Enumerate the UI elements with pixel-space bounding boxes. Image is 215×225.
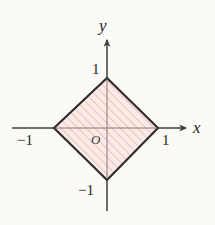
figure-container: y x 1 −1 −1 1 O	[0, 0, 215, 225]
diamond-region-fill	[54, 78, 158, 180]
coordinate-plane-figure	[0, 0, 215, 225]
tick-label-y-negative-one: −1	[78, 183, 94, 198]
tick-label-y-positive-one: 1	[92, 62, 100, 77]
origin-label: O	[91, 133, 100, 146]
x-axis-label: x	[193, 119, 201, 136]
tick-label-x-negative-one: −1	[17, 133, 33, 148]
tick-label-x-positive-one: 1	[162, 133, 170, 148]
y-axis-label: y	[99, 17, 107, 34]
